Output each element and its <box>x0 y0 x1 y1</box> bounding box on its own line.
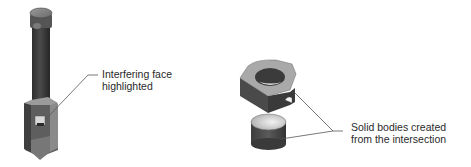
callout-line-1: Interfering face <box>102 68 172 80</box>
ring-body-figure <box>240 60 296 113</box>
cylinder-body-figure <box>251 114 286 150</box>
shaft-assembly-figure <box>24 8 58 160</box>
interfering-face-shadow <box>37 123 44 126</box>
solid-bodies-leader-line-upper <box>294 92 343 131</box>
callout-line-2: highlighted <box>102 80 172 92</box>
cylinder-bottom <box>251 138 286 150</box>
bracket-left-wall <box>24 103 31 152</box>
shaft-cap-top <box>30 8 52 18</box>
ring-bore-hole <box>255 68 285 86</box>
shaft-cap-notch <box>33 23 41 29</box>
bracket-bottom-face <box>31 136 50 160</box>
cylinder-top-face <box>251 114 286 130</box>
solid-bodies-leader-line-lower <box>281 131 333 139</box>
bracket-right-wall <box>50 104 58 152</box>
callout-line-2: from the intersection <box>351 133 446 145</box>
interfering-face-callout: Interfering face highlighted <box>102 68 172 92</box>
solid-bodies-callout: Solid bodies created from the intersecti… <box>351 121 446 145</box>
callout-line-1: Solid bodies created <box>351 121 446 133</box>
